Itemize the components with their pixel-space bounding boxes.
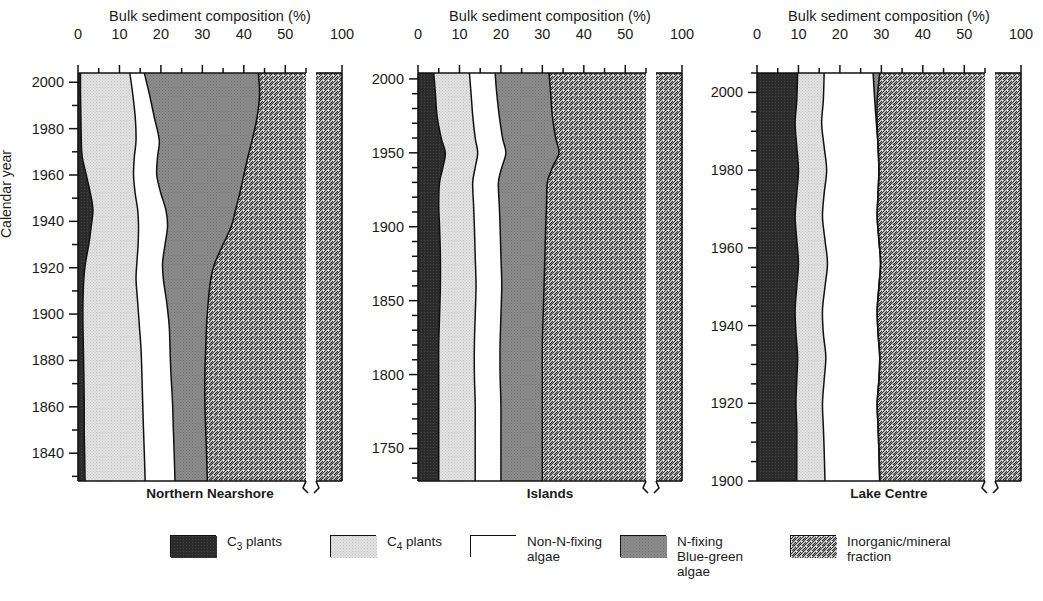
x-tick-label: 50 bbox=[956, 26, 972, 42]
legend-label-c3-plants: C3 plants bbox=[227, 534, 282, 552]
legend-swatch-c3-plants bbox=[170, 535, 216, 557]
stratigraphy-plot bbox=[78, 0, 346, 487]
y-tick-label: 1900 bbox=[32, 306, 64, 322]
y-tick-label: 1920 bbox=[711, 395, 743, 411]
y-tick-label: 1900 bbox=[372, 219, 404, 235]
x-tick-label: 40 bbox=[576, 26, 592, 42]
legend-label-n-fixing-blue-green-algae: N-fixing Blue-green algae bbox=[677, 534, 743, 579]
panel-northern-nearshore: Bulk sediment composition (%) Northern N… bbox=[78, 0, 342, 520]
band-inorganic-mineral-fraction bbox=[542, 73, 646, 481]
y-tick-label: 1840 bbox=[32, 445, 64, 461]
panel-lake-centre: Bulk sediment composition (%) Lake Centr… bbox=[757, 0, 1021, 520]
y-tick-label: 1750 bbox=[372, 440, 404, 456]
x-tick-label: 30 bbox=[534, 26, 550, 42]
legend-item-c4-plants: C4 plants bbox=[330, 534, 442, 557]
x-tick-label: 0 bbox=[753, 26, 761, 42]
band-inorganic-stub bbox=[316, 73, 342, 481]
stratigraphy-plot bbox=[757, 0, 1025, 487]
legend-item-c3-plants: C3 plants bbox=[170, 534, 282, 557]
legend-label-non-n-fixing-algae: Non-N-fixing algae bbox=[527, 534, 602, 564]
stratigraphic-composition-figure: Calendar year Bulk sediment composition … bbox=[0, 0, 1043, 601]
panel-islands: Bulk sediment composition (%) Islands 01… bbox=[418, 0, 682, 520]
x-tick-label: 100 bbox=[670, 26, 694, 42]
y-tick-label: 1980 bbox=[711, 162, 743, 178]
band-c3-plants bbox=[757, 73, 798, 481]
x-tick-label: 10 bbox=[111, 26, 127, 42]
y-tick-label: 1850 bbox=[372, 293, 404, 309]
y-tick-label: 1860 bbox=[32, 399, 64, 415]
band-non-n-fixing-algae bbox=[822, 73, 881, 481]
legend-item-non-n-fixing-algae: Non-N-fixing algae bbox=[470, 534, 602, 564]
legend-label-inorganic-mineral-fraction: Inorganic/mineral fraction bbox=[847, 534, 951, 564]
legend-swatch-inorganic-mineral-fraction bbox=[790, 535, 836, 557]
y-tick-label: 1920 bbox=[32, 260, 64, 276]
band-inorganic-mineral-fraction bbox=[877, 73, 985, 481]
x-tick-label: 10 bbox=[790, 26, 806, 42]
y-tick-label: 1950 bbox=[372, 145, 404, 161]
stratigraphy-plot bbox=[418, 0, 686, 487]
x-tick-label: 40 bbox=[236, 26, 252, 42]
y-tick-label: 1980 bbox=[32, 121, 64, 137]
y-tick-label: 1960 bbox=[32, 167, 64, 183]
x-tick-label: 10 bbox=[451, 26, 467, 42]
legend-swatch-n-fixing-blue-green-algae bbox=[620, 535, 666, 557]
x-tick-label: 30 bbox=[873, 26, 889, 42]
x-tick-label: 30 bbox=[194, 26, 210, 42]
band-inorganic-stub bbox=[995, 73, 1021, 481]
legend-label-c4-plants: C4 plants bbox=[387, 534, 442, 552]
y-tick-label: 1940 bbox=[711, 318, 743, 334]
y-tick-label: 1880 bbox=[32, 352, 64, 368]
x-tick-label: 100 bbox=[1009, 26, 1033, 42]
x-tick-label: 50 bbox=[617, 26, 633, 42]
x-tick-label: 40 bbox=[915, 26, 931, 42]
y-tick-label: 1960 bbox=[711, 240, 743, 256]
y-axis-title: Calendar year bbox=[0, 150, 14, 238]
y-tick-label: 1800 bbox=[372, 367, 404, 383]
legend-item-inorganic-mineral-fraction: Inorganic/mineral fraction bbox=[790, 534, 951, 564]
x-tick-label: 20 bbox=[832, 26, 848, 42]
y-tick-label: 1900 bbox=[711, 473, 743, 489]
x-tick-label: 20 bbox=[153, 26, 169, 42]
legend-swatch-non-n-fixing-algae bbox=[470, 535, 516, 557]
y-tick-label: 2000 bbox=[711, 84, 743, 100]
legend-item-n-fixing-blue-green-algae: N-fixing Blue-green algae bbox=[620, 534, 743, 579]
y-tick-label: 2000 bbox=[32, 74, 64, 90]
legend-swatch-c4-plants bbox=[330, 535, 376, 557]
x-tick-label: 50 bbox=[277, 26, 293, 42]
x-tick-label: 20 bbox=[493, 26, 509, 42]
y-tick-label: 1940 bbox=[32, 213, 64, 229]
x-tick-label: 100 bbox=[330, 26, 354, 42]
band-inorganic-stub bbox=[656, 73, 682, 481]
legend: C3 plantsC4 plantsNon-N-fixing algaeN-fi… bbox=[0, 528, 1043, 598]
x-tick-label: 0 bbox=[414, 26, 422, 42]
x-tick-label: 0 bbox=[74, 26, 82, 42]
y-tick-label: 2000 bbox=[372, 71, 404, 87]
